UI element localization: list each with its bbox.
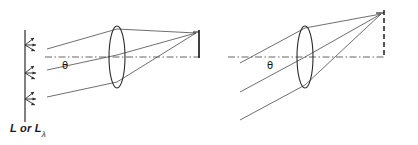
light-ray [305,14,381,57]
source-radiance-label: L or Lλ [10,123,46,137]
light-ray [117,33,196,55]
light-ray [305,14,381,28]
right-panel [228,10,385,120]
source-radiance-label-main: L or L [10,122,42,134]
light-ray [47,29,117,49]
light-ray [240,85,305,120]
light-ray [305,14,381,85]
light-ray [240,28,305,63]
source-radiance-label-subscript: λ [42,130,47,139]
optics-radiance-figure: L or Lλ θ θ [0,0,418,145]
angle-label-left: θ [62,61,68,71]
left-panel [25,26,200,122]
light-ray [47,82,117,97]
light-ray [117,29,196,33]
angle-label-right: θ [267,61,273,71]
figure-canvas [0,0,418,145]
light-ray [117,33,196,82]
